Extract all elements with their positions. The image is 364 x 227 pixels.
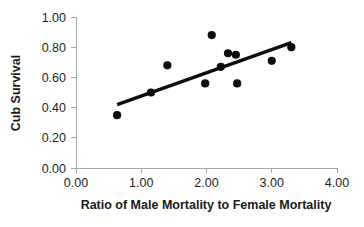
x-tick-label: 2.00 — [194, 176, 218, 190]
data-point — [233, 79, 241, 87]
y-tick-label: 0.20 — [42, 131, 66, 145]
y-axis-title: Cub Survival — [9, 55, 23, 131]
y-tick-label: 0.00 — [42, 162, 66, 176]
data-point — [208, 31, 216, 39]
data-point — [163, 61, 171, 69]
data-point — [268, 57, 276, 65]
y-tick-label: 0.60 — [42, 71, 66, 85]
x-tick-label: 1.00 — [129, 176, 153, 190]
scatter-chart: 0.000.200.400.600.801.00 0.001.002.003.0… — [0, 0, 364, 227]
data-point — [217, 63, 225, 71]
x-tick-label: 3.00 — [260, 176, 284, 190]
y-tick-label: 0.40 — [42, 101, 66, 115]
chart-svg: 0.000.200.400.600.801.00 0.001.002.003.0… — [0, 0, 364, 227]
y-tick-label: 0.80 — [42, 41, 66, 55]
data-point — [201, 79, 209, 87]
data-point — [287, 43, 295, 51]
data-point — [113, 111, 121, 119]
x-axis-title: Ratio of Male Mortality to Female Mortal… — [81, 198, 332, 212]
x-tick-label: 4.00 — [325, 176, 349, 190]
data-point — [147, 88, 155, 96]
data-point — [224, 49, 232, 57]
y-tick-label: 1.00 — [42, 11, 66, 25]
data-point — [232, 51, 240, 59]
x-tick-label: 0.00 — [64, 176, 88, 190]
